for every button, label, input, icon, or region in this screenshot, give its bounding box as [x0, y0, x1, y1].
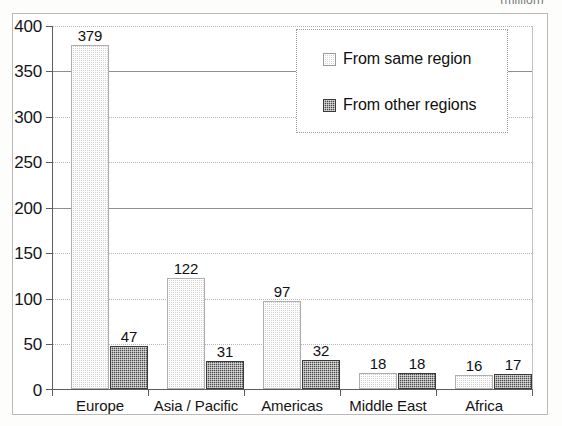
y-tick-100 — [46, 299, 53, 300]
y-axis-label-250: 250 — [14, 154, 42, 171]
plot-right-border — [532, 26, 533, 390]
x-category-label-africa: Africa — [436, 398, 532, 414]
gridline-400 — [53, 26, 532, 27]
bar-europe-same[interactable] — [71, 45, 109, 389]
legend-item-same-region[interactable]: From same region — [323, 51, 471, 67]
bar-asia-pacific-same[interactable] — [167, 278, 205, 389]
unit-caption: (million) — [500, 0, 544, 4]
bar-middle-east-other[interactable] — [398, 373, 436, 389]
x-axis-line — [52, 389, 533, 390]
x-category-label-europe: Europe — [52, 398, 148, 414]
x-tick-4 — [436, 389, 437, 396]
y-tick-250 — [46, 162, 53, 163]
value-label-europe-other: 47 — [110, 329, 148, 344]
gridline-150 — [53, 253, 532, 254]
scanned-page: (million) 400 350 300 250 200 150 — [0, 0, 562, 426]
value-label-africa-other: 17 — [494, 357, 532, 372]
value-label-asia-pacific-same: 122 — [167, 261, 205, 276]
legend-label-same-region: From same region — [343, 51, 471, 67]
y-tick-200 — [46, 208, 53, 209]
bar-africa-same[interactable] — [455, 375, 493, 389]
legend-swatch-light-icon — [323, 53, 336, 66]
legend-label-other-regions: From other regions — [343, 97, 476, 113]
y-axis-label-100: 100 — [14, 291, 42, 308]
value-label-middle-east-same: 18 — [359, 356, 397, 371]
bar-europe-other[interactable] — [110, 346, 148, 389]
x-tick-0 — [52, 389, 53, 396]
y-tick-350 — [46, 71, 53, 72]
gridline-250 — [53, 162, 532, 163]
bar-chart: 400 350 300 250 200 150 100 50 0 379 — [12, 13, 548, 415]
x-tick-5 — [532, 389, 533, 396]
y-axis-label-50: 50 — [23, 336, 42, 353]
x-category-label-americas: Americas — [244, 398, 340, 414]
y-axis-label-200: 200 — [14, 200, 42, 217]
bar-middle-east-same[interactable] — [359, 373, 397, 389]
value-label-africa-same: 16 — [455, 358, 493, 373]
y-tick-400 — [46, 26, 53, 27]
x-tick-3 — [340, 389, 341, 396]
y-axis-label-0: 0 — [33, 382, 42, 399]
value-label-europe-same: 379 — [71, 28, 109, 43]
x-tick-1 — [148, 389, 149, 396]
x-category-label-middle-east: Middle East — [340, 398, 436, 414]
bar-asia-pacific-other[interactable] — [206, 361, 244, 389]
gridline-200 — [53, 208, 532, 209]
value-label-americas-same: 97 — [263, 284, 301, 299]
y-tick-300 — [46, 117, 53, 118]
y-axis-label-150: 150 — [14, 245, 42, 262]
bar-africa-other[interactable] — [494, 374, 532, 389]
x-tick-2 — [244, 389, 245, 396]
y-tick-50 — [46, 344, 53, 345]
legend-item-other-regions[interactable]: From other regions — [323, 97, 476, 113]
y-axis-label-400: 400 — [14, 18, 42, 35]
y-tick-150 — [46, 253, 53, 254]
value-label-asia-pacific-other: 31 — [206, 344, 244, 359]
value-label-middle-east-other: 18 — [398, 356, 436, 371]
value-label-americas-other: 32 — [302, 343, 340, 358]
bar-americas-other[interactable] — [302, 360, 340, 389]
chart-legend: From same region From other regions — [296, 29, 508, 133]
x-category-label-asia-pacific: Asia / Pacific — [148, 398, 244, 414]
y-axis-label-300: 300 — [14, 109, 42, 126]
gridline-100 — [53, 299, 532, 300]
bar-americas-same[interactable] — [263, 301, 301, 389]
legend-swatch-dark-icon — [323, 99, 336, 112]
y-axis-label-350: 350 — [14, 63, 42, 80]
